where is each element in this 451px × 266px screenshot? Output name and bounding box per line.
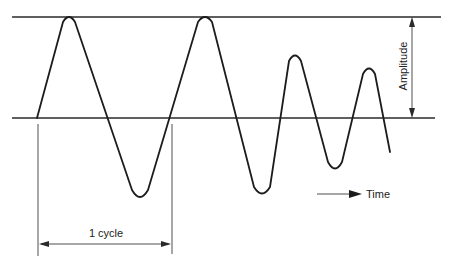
time-label: Time — [366, 188, 390, 200]
amplitude-arrow-up-icon — [409, 17, 415, 27]
time-axis-indicator: Time — [317, 188, 390, 200]
waveform-curve — [37, 17, 390, 197]
time-arrow-right-icon — [349, 190, 362, 198]
cycle-label: 1 cycle — [89, 227, 123, 239]
amplitude-label: Amplitude — [397, 42, 409, 91]
cycle-arrow-left-icon — [39, 241, 49, 247]
cycle-dimension: 1 cycle — [38, 124, 172, 256]
amplitude-arrow-down-icon — [409, 108, 415, 118]
amplitude-dimension: Amplitude — [397, 17, 415, 118]
cycle-arrow-right-icon — [161, 241, 171, 247]
waveform-diagram: Amplitude 1 cycle Time — [0, 0, 451, 266]
